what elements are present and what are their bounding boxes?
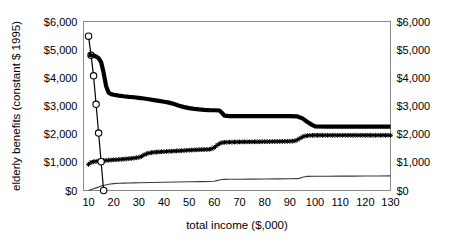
series-line-thin-low-benefits bbox=[89, 176, 391, 191]
y-tick-label-right: $5,000 bbox=[397, 44, 431, 56]
data-point-marker-circle bbox=[85, 33, 91, 39]
y-tick-label-left: $4,000 bbox=[44, 72, 78, 84]
y-tick-label-left: $1,000 bbox=[44, 156, 78, 168]
x-axis-title: total income ($,000) bbox=[186, 219, 288, 231]
x-tick-label: 10 bbox=[82, 196, 94, 208]
series-thin-low-benefits bbox=[89, 176, 391, 191]
y-tick-label-left: $2,000 bbox=[44, 128, 78, 140]
x-tick-label: 40 bbox=[158, 196, 170, 208]
x-tick-label: 100 bbox=[306, 196, 324, 208]
y-tick-label-right: $6,000 bbox=[397, 16, 431, 28]
series-star-rising-benefits bbox=[86, 133, 393, 167]
y-axis-tick-labels-right: $0$1,000$2,000$3,000$4,000$5,000$6,000 bbox=[397, 16, 431, 197]
x-tick-label: 130 bbox=[381, 196, 399, 208]
x-tick-label: 70 bbox=[233, 196, 245, 208]
y-tick-label-left: $3,000 bbox=[44, 100, 78, 112]
data-point-marker-circle bbox=[93, 101, 99, 107]
x-tick-label: 120 bbox=[356, 196, 374, 208]
y-tick-label-left: $5,000 bbox=[44, 44, 78, 56]
x-axis-tick-labels: 102030405060708090100110120130 bbox=[82, 196, 399, 208]
x-tick-label: 60 bbox=[208, 196, 220, 208]
x-tick-label: 20 bbox=[108, 196, 120, 208]
y-axis-tick-labels-left: $0$1,000$2,000$3,000$4,000$5,000$6,000 bbox=[44, 16, 78, 197]
plot-frame-group bbox=[84, 22, 391, 191]
x-tick-label: 110 bbox=[331, 196, 349, 208]
y-tick-label-right: $4,000 bbox=[397, 72, 431, 84]
data-point-marker-circle bbox=[90, 73, 96, 79]
y-tick-label-right: $1,000 bbox=[397, 156, 431, 168]
x-tick-label: 90 bbox=[284, 196, 296, 208]
data-point-marker-circle bbox=[98, 159, 104, 165]
series-line-thick-declining-benefits bbox=[89, 55, 391, 127]
x-tick-label: 50 bbox=[183, 196, 195, 208]
x-tick-label: 30 bbox=[133, 196, 145, 208]
plot-area-frame bbox=[84, 22, 391, 191]
data-point-marker-circle bbox=[100, 187, 106, 193]
series-thick-declining-benefits bbox=[89, 55, 391, 127]
y-tick-label-right: $3,000 bbox=[397, 100, 431, 112]
chart-container: $0$1,000$2,000$3,000$4,000$5,000$6,000 $… bbox=[0, 0, 475, 249]
data-point-marker-circle bbox=[95, 130, 101, 136]
y-tick-label-right: $2,000 bbox=[397, 128, 431, 140]
x-tick-label: 80 bbox=[259, 196, 271, 208]
y-tick-label-left: $0 bbox=[65, 185, 77, 197]
y-tick-label-left: $6,000 bbox=[44, 16, 78, 28]
y-axis-title: elderly benefits (constant $ 1995) bbox=[10, 21, 22, 191]
data-series-layer bbox=[85, 33, 393, 194]
chart-svg: $0$1,000$2,000$3,000$4,000$5,000$6,000 $… bbox=[0, 0, 475, 249]
data-point-marker-star bbox=[388, 133, 393, 138]
